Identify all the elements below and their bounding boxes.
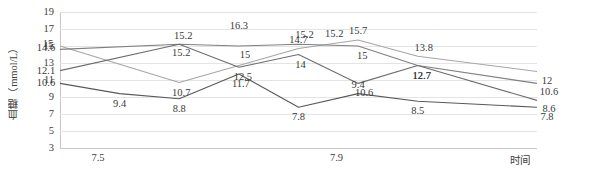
data-label: 14 — [295, 59, 306, 70]
data-label: 12.1 — [37, 65, 55, 76]
data-label: 10.6 — [540, 87, 558, 98]
gridline — [60, 148, 537, 149]
data-label: 15.2 — [295, 30, 313, 41]
data-label: 13.8 — [415, 43, 433, 54]
data-label: 8.8 — [173, 103, 186, 114]
line-chart: 血糖（mmol/L） 19171513119753 1510.714.715.7… — [0, 0, 590, 184]
data-label: 10.6 — [37, 78, 55, 89]
y-tick-label: 7 — [28, 109, 54, 120]
data-label: 14.6 — [37, 43, 55, 54]
data-label: 7.8 — [540, 112, 553, 123]
data-label: 15 — [240, 50, 251, 61]
y-axis-title-text: 血糖（mmol/L） — [6, 42, 21, 120]
x-tick-label: 7.5 — [91, 152, 104, 163]
data-label: 8.5 — [411, 106, 424, 117]
y-tick-label: 5 — [28, 126, 54, 137]
data-label: 15.2 — [172, 48, 190, 59]
data-label: 7.8 — [292, 112, 305, 123]
data-label: 15 — [357, 51, 368, 62]
y-tick-label: 3 — [28, 143, 54, 154]
y-axis-title: 血糖（mmol/L） — [2, 18, 24, 144]
plot-area: 1510.714.715.713.81214.615.21515.21512.7… — [60, 12, 537, 148]
data-label: 10.7 — [172, 87, 190, 98]
data-label: 9.4 — [113, 98, 126, 109]
data-label: 15.2 — [174, 31, 192, 42]
y-tick-label: 9 — [28, 92, 54, 103]
y-tick-label: 17 — [28, 24, 54, 35]
x-axis-title: 时间 — [510, 152, 530, 167]
data-label: 9.4 — [352, 79, 365, 90]
data-label: 12 — [542, 75, 553, 86]
y-tick-label: 19 — [28, 7, 54, 18]
data-label: 15.7 — [349, 26, 367, 37]
data-label: 12.7 — [413, 70, 431, 81]
data-label: 11.7 — [232, 79, 250, 90]
data-label: 16.3 — [230, 21, 248, 32]
x-tick-label: 7.9 — [330, 152, 343, 163]
data-label: 15.2 — [325, 29, 343, 40]
